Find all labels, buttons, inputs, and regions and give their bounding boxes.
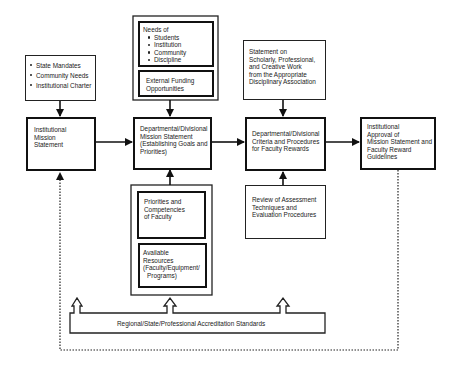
list-item: Students	[147, 34, 186, 42]
box-text-line: (Establishing Goals and	[140, 140, 208, 148]
box-text-line: and Creative Work	[249, 63, 316, 71]
dept-mission-box: Departmental/Divisional Mission Statemen…	[133, 117, 212, 170]
list-item: State Mandates	[29, 61, 91, 71]
list-item: Institutional Charter	[29, 81, 91, 91]
box-text-line: Available	[143, 249, 200, 257]
box-text-line: Criteria and Procedures	[252, 138, 320, 146]
box-text-line: Institutional	[367, 123, 432, 131]
box-text-line: Mission	[34, 134, 66, 142]
box-text-line: Departmental/Divisional	[140, 125, 208, 133]
institutional-approval-box: Institutional Approval of Mission Statem…	[360, 117, 436, 170]
accreditation-bar-outline	[70, 298, 325, 333]
box-text-line: Disciplinary Association	[249, 78, 316, 86]
box-text-line: Opportunities	[146, 85, 194, 93]
box-text-line: Departmental/Divisional	[252, 130, 320, 138]
institutional-mission-box: Institutional Mission Statement	[26, 117, 96, 171]
accreditation-label: Regional/State/Professional Accreditatio…	[117, 320, 265, 327]
box-text-line: External Funding	[146, 77, 194, 85]
inputs-list: State Mandates Community Needs Instituti…	[29, 61, 91, 91]
inputs-box: State Mandates Community Needs Instituti…	[25, 55, 96, 101]
box-text-line: Statement on	[249, 48, 316, 56]
box-text-line: Competencies	[144, 206, 185, 214]
box-text-line: Statement	[34, 141, 66, 149]
box-text-line: Mission Statement and	[367, 138, 432, 146]
box-text-line: for Faculty Rewards	[252, 145, 320, 153]
box-text-line: of Faculty	[144, 213, 185, 221]
box-text-line: Resources	[143, 257, 200, 265]
box-text-line: Mission Statement	[140, 133, 208, 141]
review-box: Review of Assessment Techniques and Eval…	[245, 185, 326, 239]
feedback-arrowhead	[56, 172, 64, 180]
resources-box: Available Resources (Faculty/Equipment/ …	[138, 243, 207, 288]
list-item: Institution	[147, 41, 186, 49]
box-text-line: Priorities and	[144, 198, 185, 206]
needs-box: Needs of Students Institution Community …	[138, 21, 214, 67]
scholarly-statement-box: Statement on Scholarly, Professional, an…	[243, 40, 326, 100]
box-text-line: Approval of	[367, 131, 432, 139]
list-item: Discipline	[147, 56, 186, 64]
needs-heading: Needs of	[143, 26, 186, 34]
external-funding-box: External Funding Opportunities	[138, 70, 214, 97]
box-text-line: Institutional	[34, 126, 66, 134]
box-text-line: from the Appropriate	[249, 71, 316, 79]
box-text-line: Guidelines	[367, 153, 432, 161]
list-item: Community Needs	[29, 71, 91, 81]
box-text-line: Scholarly, Professional,	[249, 56, 316, 64]
box-text-line: Techniques and	[252, 204, 316, 212]
list-item: Community	[147, 49, 186, 57]
box-text-line: Evaluation Procedures	[252, 211, 316, 219]
box-text-line: Faculty Reward	[367, 146, 432, 154]
box-text-line: Priorities)	[140, 148, 208, 156]
dept-criteria-box: Departmental/Divisional Criteria and Pro…	[245, 117, 326, 171]
box-text-line: Review of Assessment	[252, 196, 316, 204]
priorities-box: Priorities and Competencies of Faculty	[137, 191, 206, 239]
box-text-line: (Faculty/Equipment/	[143, 264, 200, 272]
box-text-line: Programs)	[143, 272, 200, 280]
